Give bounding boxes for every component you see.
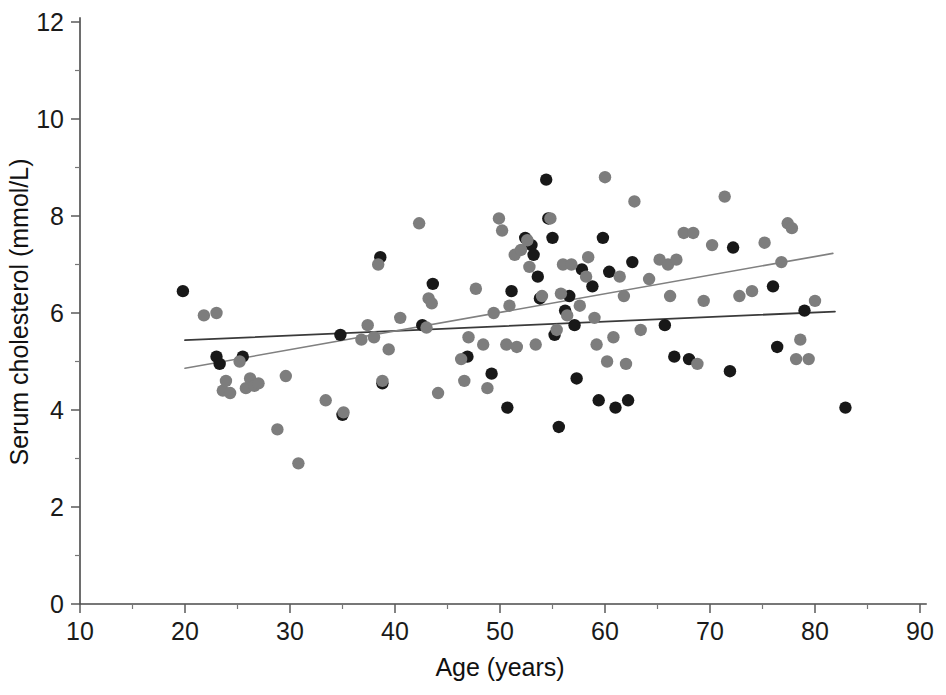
data-point [383, 343, 395, 355]
data-point [670, 253, 682, 265]
data-point [481, 382, 493, 394]
data-points-group [177, 171, 852, 470]
data-point [376, 375, 388, 387]
data-point [593, 394, 605, 406]
data-point [733, 290, 745, 302]
data-point [177, 285, 189, 297]
data-point [544, 212, 556, 224]
data-point [455, 353, 467, 365]
scatter-plot-canvas: 024681012102030405060708090 Age (years) … [0, 0, 946, 695]
data-point [724, 365, 736, 377]
data-point [803, 353, 815, 365]
data-point [493, 212, 505, 224]
x-tick-label: 40 [381, 617, 409, 645]
x-tick-label: 70 [696, 617, 724, 645]
data-point [607, 331, 619, 343]
data-point [527, 249, 539, 261]
data-point [432, 387, 444, 399]
data-point [635, 324, 647, 336]
data-point [590, 338, 602, 350]
data-point [355, 333, 367, 345]
data-point [334, 329, 346, 341]
data-point [687, 227, 699, 239]
data-point [413, 217, 425, 229]
data-point [609, 401, 621, 413]
data-point [790, 353, 802, 365]
data-point [540, 173, 552, 185]
data-point [536, 290, 548, 302]
data-point [320, 394, 332, 406]
data-point [394, 312, 406, 324]
x-tick-label: 10 [66, 617, 94, 645]
x-tick-label: 20 [171, 617, 199, 645]
y-tick-label: 0 [50, 590, 64, 618]
data-point [664, 290, 676, 302]
data-point [426, 297, 438, 309]
data-point [488, 307, 500, 319]
chart-figure: 024681012102030405060708090 Age (years) … [0, 0, 946, 695]
data-point [668, 350, 680, 362]
data-point [372, 258, 384, 270]
x-tick-label: 60 [591, 617, 619, 645]
data-point [233, 355, 245, 367]
y-tick-label: 8 [50, 202, 64, 230]
data-point [511, 341, 523, 353]
data-point [561, 309, 573, 321]
data-point [271, 423, 283, 435]
data-point [252, 377, 264, 389]
data-point [599, 171, 611, 183]
x-tick-label: 50 [486, 617, 514, 645]
data-point [758, 236, 770, 248]
data-point [565, 258, 577, 270]
data-point [213, 358, 225, 370]
dark-trendline [185, 312, 835, 341]
data-point [570, 372, 582, 384]
data-point [659, 319, 671, 331]
data-point [496, 224, 508, 236]
data-point [719, 190, 731, 202]
x-axis-title: Age (years) [435, 653, 564, 681]
data-point [597, 232, 609, 244]
data-point [280, 370, 292, 382]
data-point [706, 239, 718, 251]
data-point [427, 278, 439, 290]
data-point [620, 358, 632, 370]
y-tick-label: 10 [36, 105, 64, 133]
data-point [626, 256, 638, 268]
y-tick-label: 4 [50, 396, 64, 424]
data-point [503, 300, 515, 312]
data-point [786, 222, 798, 234]
data-point [767, 280, 779, 292]
data-point [601, 355, 613, 367]
data-point [532, 270, 544, 282]
data-point [691, 358, 703, 370]
data-point [643, 273, 655, 285]
x-tick-label: 80 [801, 617, 829, 645]
data-point [530, 338, 542, 350]
data-point [477, 338, 489, 350]
data-point [746, 285, 758, 297]
data-point [337, 406, 349, 418]
data-point [839, 401, 851, 413]
x-tick-label: 30 [276, 617, 304, 645]
x-tick-label: 90 [906, 617, 934, 645]
data-point [771, 341, 783, 353]
data-point [521, 234, 533, 246]
data-point [618, 290, 630, 302]
data-point [614, 270, 626, 282]
data-point [292, 457, 304, 469]
data-point [551, 324, 563, 336]
data-point [553, 421, 565, 433]
data-point [500, 338, 512, 350]
data-point [485, 367, 497, 379]
data-point [775, 256, 787, 268]
data-point [462, 331, 474, 343]
data-point [368, 331, 380, 343]
data-point [628, 195, 640, 207]
data-point [420, 321, 432, 333]
data-point [555, 287, 567, 299]
data-point [622, 394, 634, 406]
data-point [523, 261, 535, 273]
data-point [698, 295, 710, 307]
data-point [794, 333, 806, 345]
